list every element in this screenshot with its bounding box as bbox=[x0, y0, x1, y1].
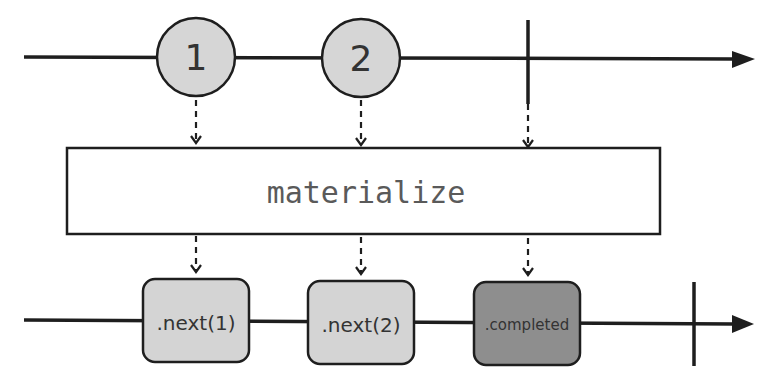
output-timeline-arrowhead-icon bbox=[732, 315, 754, 333]
operator-name: materialize bbox=[267, 175, 466, 210]
input-to-operator-arrows bbox=[196, 100, 528, 147]
input-marble-2: 2 bbox=[322, 19, 400, 97]
output-event-next-1: .next(1) bbox=[143, 279, 249, 362]
operator-to-output-arrows bbox=[196, 236, 528, 275]
output-event-completed-label: .completed bbox=[485, 316, 569, 334]
output-event-completed: .completed bbox=[474, 282, 580, 365]
marble-diagram: 1 2 materialize .next(1) .next(2) bbox=[0, 0, 771, 381]
input-timeline-arrowhead-icon bbox=[732, 51, 755, 68]
input-marble-1: 1 bbox=[157, 18, 235, 96]
input-marble-2-label: 2 bbox=[350, 38, 373, 79]
input-marble-1-label: 1 bbox=[185, 37, 208, 78]
operator-box: materialize bbox=[67, 148, 660, 234]
output-timeline: .next(1) .next(2) .completed bbox=[24, 279, 754, 366]
output-event-next-1-label: .next(1) bbox=[157, 311, 236, 335]
output-event-next-2: .next(2) bbox=[308, 281, 414, 364]
output-event-next-2-label: .next(2) bbox=[322, 313, 401, 337]
input-timeline: 1 2 bbox=[24, 18, 755, 104]
